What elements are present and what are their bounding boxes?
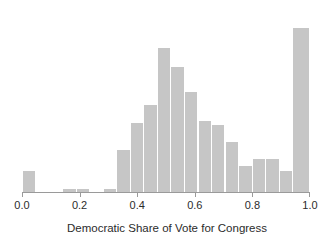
x-axis-tick <box>195 192 196 197</box>
x-axis-title: Democratic Share of Vote for Congress <box>0 222 334 234</box>
histogram-bar <box>280 171 292 192</box>
histogram-bar <box>253 159 265 192</box>
x-axis-tick-label: 0.2 <box>72 199 87 211</box>
histogram-bar <box>212 125 224 192</box>
x-axis-tick <box>309 192 310 197</box>
x-axis-tick-label: 0.0 <box>14 199 29 211</box>
histogram-bar <box>266 159 278 192</box>
x-axis-tick <box>80 192 81 197</box>
histogram-bar <box>199 121 211 192</box>
histogram-bar <box>117 150 129 192</box>
histogram-figure: 0.00.20.40.60.81.0 Democratic Share of V… <box>0 0 334 243</box>
histogram-bar <box>226 142 238 192</box>
histogram-bar <box>185 92 197 192</box>
histogram-bar <box>131 123 143 192</box>
x-axis-tick-label: 0.6 <box>187 199 202 211</box>
histogram-bar <box>158 48 170 192</box>
histogram-bar <box>23 171 35 192</box>
x-axis-tick <box>22 192 23 197</box>
x-axis-line <box>22 192 310 193</box>
x-axis-tick <box>137 192 138 197</box>
histogram-bar <box>239 166 251 192</box>
x-axis-tick-label: 0.8 <box>245 199 260 211</box>
x-axis-tick-label: 1.0 <box>302 199 317 211</box>
histogram-bar <box>144 105 156 192</box>
histogram-bar <box>293 28 309 192</box>
x-axis-tick <box>252 192 253 197</box>
histogram-bar <box>171 67 183 192</box>
x-axis-tick-label: 0.4 <box>130 199 145 211</box>
plot-area: 0.00.20.40.60.81.0 <box>0 0 334 243</box>
